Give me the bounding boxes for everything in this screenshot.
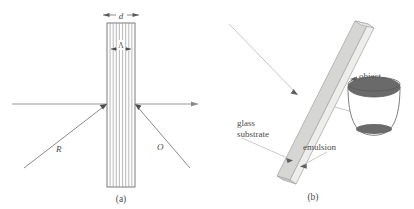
object-cup xyxy=(348,77,400,135)
cup-base-shadow xyxy=(356,124,392,134)
thickness-arrowhead-left xyxy=(103,13,110,17)
object-beam xyxy=(135,104,190,168)
panel-a-caption: (a) xyxy=(116,194,127,205)
reference-beam xyxy=(24,104,107,168)
reference-beam-line xyxy=(24,104,107,168)
object-beam-line xyxy=(135,104,190,168)
panel-b-reference-beam-arrowhead xyxy=(291,89,298,95)
object-beam-arrowhead xyxy=(135,104,141,110)
panel-b-diagram: glass substrate emulsion object (b) xyxy=(207,0,414,209)
reference-beam-label: R xyxy=(55,144,62,154)
thickness-arrowhead-right xyxy=(133,13,140,17)
glass-substrate-leader-line xyxy=(242,138,292,160)
panel-b-reference-beam xyxy=(229,24,298,95)
glass-substrate-label-line1: glass xyxy=(237,118,255,128)
optics-figure: d Λ R O (a) xyxy=(0,0,414,209)
object-beam-label: O xyxy=(157,142,164,152)
glass-substrate-label-line2: substrate xyxy=(237,129,269,139)
thickness-dimension: d xyxy=(103,9,139,22)
emulsion-label: emulsion xyxy=(303,142,336,152)
cup-rim-band xyxy=(348,77,400,97)
panel-a-diagram: d Λ R O (a) xyxy=(0,0,207,209)
panel-b-reference-beam-line xyxy=(229,24,297,94)
fringe-spacing-label: Λ xyxy=(118,41,124,50)
panel-b-caption: (b) xyxy=(307,192,318,203)
thickness-label: d xyxy=(119,11,124,21)
optical-axis-arrowhead xyxy=(191,102,198,107)
